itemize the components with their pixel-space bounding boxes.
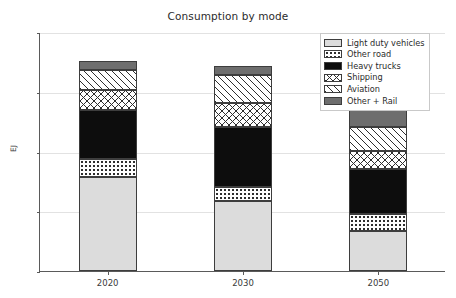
legend-item-5[interactable]: Other + Rail [324, 95, 425, 107]
bar-segment[interactable] [79, 61, 137, 70]
bar-segment[interactable] [349, 151, 407, 170]
legend-item-label: Aviation [347, 85, 380, 93]
bar-group-2020[interactable]: 2020 [40, 33, 175, 271]
y-axis-label: EJ [9, 145, 18, 152]
bar-segment[interactable] [79, 110, 137, 160]
legend-item-2[interactable]: Heavy trucks [324, 60, 425, 72]
bar-segment[interactable] [214, 66, 272, 75]
bar-segment[interactable] [349, 110, 407, 127]
legend-swatch-icon [324, 74, 342, 82]
legend-item-label: Other + Rail [347, 97, 397, 105]
legend-item-label: Heavy trucks [347, 62, 401, 70]
bar-segment[interactable] [349, 169, 407, 214]
y-tick-mark [37, 272, 40, 273]
chart-figure: Consumption by mode EJ 03060901202020203… [0, 0, 456, 298]
legend-item-label: Shipping [347, 73, 383, 81]
bar-segment[interactable] [214, 75, 272, 103]
x-tick-mark [243, 272, 244, 275]
bar-segment[interactable] [79, 70, 137, 90]
legend-item-4[interactable]: Aviation [324, 83, 425, 95]
bar-segment[interactable] [79, 159, 137, 177]
stacked-bar [79, 33, 137, 271]
x-tick-mark [378, 272, 379, 275]
bar-segment[interactable] [349, 231, 407, 271]
legend-swatch-icon [324, 39, 342, 47]
bar-segment[interactable] [214, 127, 272, 188]
bar-segment[interactable] [349, 214, 407, 231]
legend-item-label: Other road [347, 50, 391, 58]
x-tick-label: 2020 [40, 278, 175, 288]
bar-segment[interactable] [214, 103, 272, 127]
bar-segment[interactable] [214, 201, 272, 271]
legend-item-label: Light duty vehicles [347, 39, 425, 47]
bar-segment[interactable] [79, 177, 137, 271]
chart-legend: Light duty vehiclesOther roadHeavy truck… [320, 33, 430, 111]
legend-swatch-icon [324, 62, 342, 70]
bar-segment[interactable] [79, 90, 137, 110]
legend-item-1[interactable]: Other road [324, 49, 425, 61]
bar-group-2030[interactable]: 2030 [175, 33, 310, 271]
legend-item-0[interactable]: Light duty vehicles [324, 37, 425, 49]
bar-segment[interactable] [349, 127, 407, 151]
stacked-bar [214, 33, 272, 271]
legend-swatch-icon [324, 50, 342, 58]
legend-swatch-icon [324, 97, 342, 105]
chart-title: Consumption by mode [0, 10, 456, 22]
x-tick-mark [108, 272, 109, 275]
x-tick-label: 2050 [311, 278, 446, 288]
legend-swatch-icon [324, 85, 342, 93]
bar-segment[interactable] [214, 187, 272, 201]
x-tick-label: 2030 [175, 278, 310, 288]
legend-item-3[interactable]: Shipping [324, 72, 425, 84]
